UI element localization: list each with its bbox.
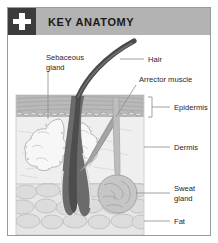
label-sebaceous-gland-line2: gland xyxy=(46,63,65,72)
label-sweat-gland-line2: gland xyxy=(174,194,193,203)
panel-header: KEY ANATOMY xyxy=(8,8,210,35)
label-hair: Hair xyxy=(148,55,162,64)
key-anatomy-panel: KEY ANATOMY xyxy=(0,0,218,243)
label-arrector-muscle: Arrector muscle xyxy=(139,75,192,84)
label-sebaceous-gland-line1: Sebaceous xyxy=(46,53,84,62)
label-dermis: Dermis xyxy=(174,143,198,152)
panel-title: KEY ANATOMY xyxy=(48,16,134,28)
label-epidermis: Epidermis xyxy=(174,103,208,112)
label-sweat-gland-line1: Sweat xyxy=(174,184,196,193)
medical-cross-icon xyxy=(8,8,36,35)
skin-cross-section-figure: Sebaceous gland Hair Arrector muscle Epi… xyxy=(8,35,210,235)
hair-shaft xyxy=(78,41,134,97)
skin-block xyxy=(10,95,150,235)
label-fat: Fat xyxy=(174,217,186,226)
leader-epidermis-bracket xyxy=(148,97,152,117)
cross-horizontal-bar xyxy=(13,19,31,24)
